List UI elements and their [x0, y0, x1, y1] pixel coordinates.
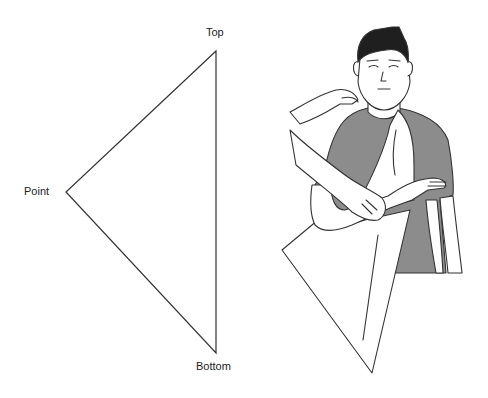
triangular-bandage-shape	[66, 51, 216, 353]
diagram-canvas	[0, 0, 488, 398]
sling-triangle	[282, 210, 410, 373]
label-bottom: Bottom	[196, 360, 231, 372]
ear-right	[408, 62, 413, 76]
label-point: Point	[24, 185, 49, 197]
ear-left	[354, 62, 359, 76]
label-top: Top	[206, 26, 224, 38]
sling-illustration	[282, 27, 462, 373]
